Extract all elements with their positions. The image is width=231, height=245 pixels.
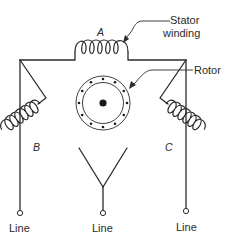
coil-c-label: C [165, 141, 173, 153]
left-diagonal-wire [20, 60, 46, 104]
center-junction-wires [79, 148, 127, 211]
stator-winding-label-line1: Stator [170, 14, 200, 26]
terminal-center [100, 210, 105, 215]
line-label-left: Line [9, 222, 30, 234]
coil-a-label: A [96, 26, 104, 38]
rotor-label: Rotor [194, 64, 221, 76]
line-label-right: Line [176, 221, 197, 233]
rotor [76, 76, 130, 130]
coil-b [0, 97, 43, 134]
rotor-shaft [99, 99, 106, 106]
stator-winding-label-line2: winding [162, 27, 200, 39]
coil-a [75, 40, 128, 54]
stator-winding-diagram: A Stator winding B C [0, 0, 231, 245]
line-label-center: Line [92, 222, 113, 234]
top-wire [20, 52, 186, 60]
coil-b-label: B [33, 141, 40, 153]
right-diagonal-wire [160, 60, 186, 104]
terminal-left [17, 210, 22, 215]
rotor-leader [129, 70, 193, 89]
terminal-right [183, 208, 188, 213]
